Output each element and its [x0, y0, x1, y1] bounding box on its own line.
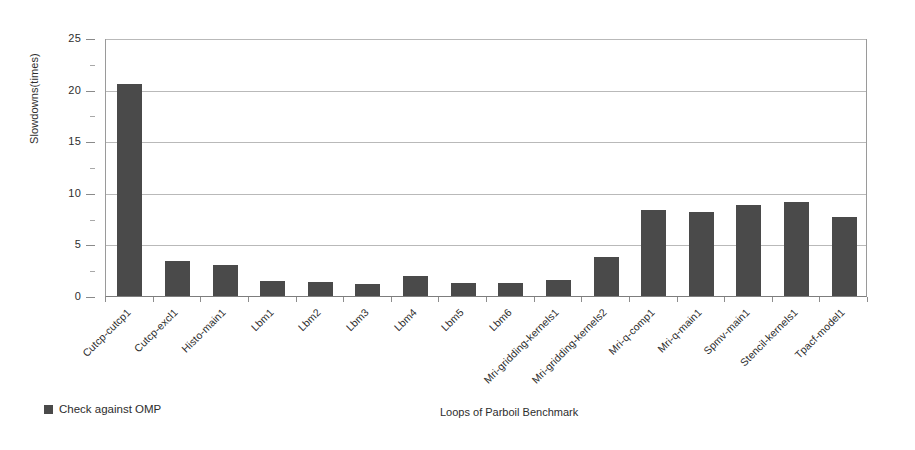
x-axis-tick-mark: [438, 297, 439, 302]
y-axis-tick-label: 5: [75, 239, 81, 250]
bar: [546, 280, 571, 296]
x-axis-tick-mark: [724, 297, 725, 302]
y-axis-minor-tick-mark: [90, 220, 95, 221]
chart-legend: Check against OMP: [44, 403, 161, 415]
bar: [832, 217, 857, 296]
y-axis-tick-label: 20: [68, 85, 81, 96]
y-axis-minor-tick-mark: [90, 168, 95, 169]
plot-area: [105, 39, 867, 297]
y-axis-tick-mark: [86, 194, 95, 195]
bar: [689, 212, 714, 296]
y-axis-minor-tick-mark: [90, 271, 95, 272]
x-axis-tick-mark: [105, 297, 106, 302]
bar: [641, 210, 666, 296]
bar: [213, 265, 238, 296]
y-axis-tick-mark: [86, 245, 95, 246]
x-axis-tick-mark: [248, 297, 249, 302]
bar: [117, 84, 142, 296]
y-axis-tick-label: 0: [75, 291, 81, 302]
x-axis-tick-mark: [819, 297, 820, 302]
bar: [736, 205, 761, 296]
gridline: [106, 194, 866, 195]
y-axis: 0510152025: [0, 0, 105, 297]
bar: [308, 282, 333, 296]
y-axis-minor-tick-mark: [90, 65, 95, 66]
bar: [403, 276, 428, 296]
y-axis-tick-mark: [86, 142, 95, 143]
gridline: [106, 142, 866, 143]
x-axis-tick-mark: [629, 297, 630, 302]
y-axis-minor-tick-mark: [90, 116, 95, 117]
y-axis-tick-mark: [86, 297, 95, 298]
x-axis-tick-mark: [343, 297, 344, 302]
y-axis-tick-label: 25: [68, 33, 81, 44]
y-axis-tick-label: 15: [68, 136, 81, 147]
x-axis-tick-mark: [200, 297, 201, 302]
y-axis-tick-mark: [86, 39, 95, 40]
bar: [355, 284, 380, 296]
legend-square-marker-icon: [44, 405, 53, 414]
bar: [451, 283, 476, 296]
x-axis-tick-mark: [391, 297, 392, 302]
x-axis-tick-mark: [772, 297, 773, 302]
bar: [498, 283, 523, 296]
bar: [594, 257, 619, 296]
x-axis-tick-mark: [296, 297, 297, 302]
x-axis-tick-mark: [867, 297, 868, 302]
gridline: [106, 39, 866, 40]
x-axis-tick-mark: [677, 297, 678, 302]
x-axis-tick-mark: [486, 297, 487, 302]
x-axis-tick-mark: [534, 297, 535, 302]
bar-chart: Slowdowns(times) 0510152025 Loops of Par…: [0, 0, 915, 450]
gridline: [106, 91, 866, 92]
y-axis-tick-label: 10: [68, 188, 81, 199]
bar: [260, 281, 285, 296]
x-axis-tick-mark: [581, 297, 582, 302]
x-axis-tick-mark: [153, 297, 154, 302]
y-axis-tick-mark: [86, 91, 95, 92]
bar: [784, 202, 809, 296]
bar: [165, 261, 190, 296]
